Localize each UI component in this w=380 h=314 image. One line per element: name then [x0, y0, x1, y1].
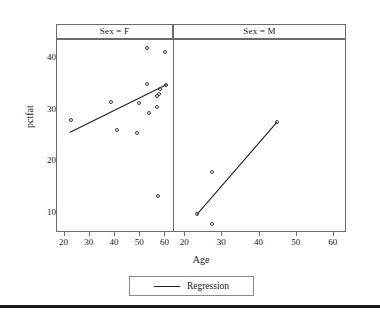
plot-area: Sex = F Sex = M [56, 24, 346, 232]
data-point [115, 128, 119, 132]
panel-strip-m: Sex = M [173, 24, 346, 39]
x-tick-mark [221, 232, 222, 236]
x-tick-mark [164, 232, 165, 236]
panel-strip-f: Sex = F [56, 24, 173, 39]
x-tick-label: 30 [212, 237, 230, 247]
scatter-panel-f [56, 39, 173, 232]
x-tick-mark [184, 232, 185, 236]
y-tick-label: 20 [36, 155, 56, 165]
x-tick-mark [114, 232, 115, 236]
data-point [163, 50, 167, 54]
data-point [210, 170, 214, 174]
x-tick-mark [296, 232, 297, 236]
data-point [147, 111, 151, 115]
y-tick-label: 30 [36, 104, 56, 114]
x-tick-mark [333, 232, 334, 236]
x-tick-label: 60 [155, 237, 173, 247]
y-axis-title: pctfat [24, 105, 35, 128]
x-tick-label: 40 [105, 237, 123, 247]
x-tick-label: 50 [130, 237, 148, 247]
x-tick-label: 50 [287, 237, 305, 247]
x-tick-mark [89, 232, 90, 236]
x-axis-title: Age [56, 254, 346, 265]
line-swatch-icon [154, 286, 180, 287]
x-tick-label: 60 [324, 237, 342, 247]
data-point [145, 82, 149, 86]
y-tick-label: 10 [36, 207, 56, 217]
scatter-panel-m [173, 39, 346, 232]
x-tick-label: 40 [250, 237, 268, 247]
y-tick-label: 40 [36, 52, 56, 62]
bottom-divider [0, 305, 380, 308]
x-tick-label: 20 [175, 237, 193, 247]
figure-canvas: pctfat 10203040 Sex = F Sex = M 20304050… [0, 0, 380, 314]
legend-label: Regression [187, 281, 229, 291]
x-tick-mark [64, 232, 65, 236]
y-axis: pctfat 10203040 [30, 24, 56, 256]
regression-line [57, 40, 173, 231]
x-tick-mark [139, 232, 140, 236]
regression-line [174, 40, 345, 231]
x-tick-label: 20 [55, 237, 73, 247]
data-point [164, 83, 168, 87]
x-tick-label: 30 [80, 237, 98, 247]
legend-box: Regression [129, 276, 254, 296]
x-tick-mark [259, 232, 260, 236]
data-point [145, 46, 149, 50]
